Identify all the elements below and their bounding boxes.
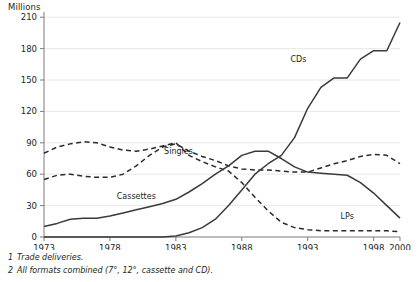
x-tick-label: 1983 — [165, 243, 187, 250]
series-label-cassettes: Cassettes — [117, 192, 156, 201]
y-tick-label: 120 — [21, 106, 37, 116]
y-tick-label: 0 — [32, 232, 37, 242]
series-label-singles: Singles — [164, 147, 193, 156]
x-tick-label: 1973 — [33, 243, 55, 250]
series-line-cds — [44, 22, 400, 237]
footnote-1: 1Trade deliveries. — [8, 252, 408, 265]
x-tick-label: 1993 — [297, 243, 319, 250]
y-tick-label: 150 — [21, 75, 37, 85]
y-tick-label: 180 — [21, 44, 37, 54]
footnote-1-number: 1 — [8, 253, 13, 262]
footnote-2-number: 2 — [8, 266, 13, 275]
line-chart-figure: Millions 0306090120150180210 19731978198… — [0, 0, 419, 282]
series-label-cds: CDs — [291, 55, 307, 64]
data-series — [44, 22, 400, 237]
footnote-2-text: All formats combined (7°, 12°, cassette … — [17, 266, 213, 275]
y-tick-label: 60 — [26, 169, 37, 179]
series-label-lps: LPs — [341, 212, 354, 221]
x-tick-label: 1978 — [99, 243, 121, 250]
y-axis-ticks: 0306090120150180210 — [21, 12, 44, 242]
x-tick-label: 1988 — [231, 243, 253, 250]
x-tick-label: 1998 — [363, 243, 385, 250]
y-tick-label: 90 — [26, 138, 37, 148]
y-tick-label: 30 — [26, 201, 37, 211]
footnote-1-text: Trade deliveries. — [17, 253, 83, 262]
x-axis-ticks: 1973197819831988199319982000 — [33, 237, 411, 250]
footnote-2: 2All formats combined (7°, 12°, cassette… — [8, 265, 408, 278]
footnotes: 1Trade deliveries. 2All formats combined… — [8, 252, 408, 277]
y-tick-label: 210 — [21, 12, 37, 22]
plot-area: 0306090120150180210 19731978198319881993… — [0, 0, 419, 250]
x-tick-label: 2000 — [389, 243, 411, 250]
